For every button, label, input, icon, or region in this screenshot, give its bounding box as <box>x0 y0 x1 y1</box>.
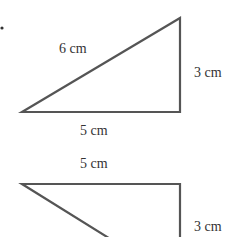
diagram-canvas: 6 cm 3 cm 5 cm 5 cm 3 cm <box>0 0 246 237</box>
triangle-1-vertical-label: 3 cm <box>194 65 222 80</box>
bullet-dot <box>0 26 3 29</box>
triangle-1-hypotenuse-label: 6 cm <box>59 41 87 56</box>
triangle-1-base-label: 5 cm <box>80 123 108 138</box>
triangle-2-top-label: 5 cm <box>80 156 108 171</box>
triangle-2-vertical-label: 3 cm <box>194 219 222 234</box>
triangle-1 <box>22 18 180 112</box>
triangle-2 <box>22 184 180 237</box>
